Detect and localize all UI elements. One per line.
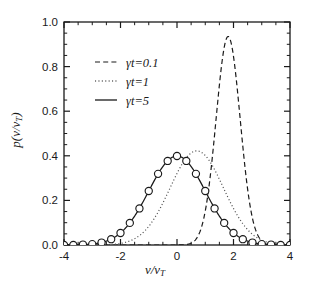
distribution-plot: -4-20240.00.20.40.60.81.0γt=0.1γt=1γt=5 [0, 0, 310, 291]
x-tick-label: 4 [287, 250, 294, 262]
y-tick-label: 0.2 [42, 194, 58, 206]
y-tick-label: 0.8 [42, 61, 58, 73]
data-marker [286, 241, 293, 248]
data-marker [154, 170, 161, 177]
data-marker [108, 236, 115, 243]
data-marker [211, 205, 218, 212]
y-tick-label: 0.4 [42, 150, 59, 162]
curve-solid [64, 156, 290, 245]
legend-label: γt=5 [126, 94, 149, 108]
data-marker [230, 229, 237, 236]
data-marker [173, 152, 180, 159]
y-tick-label: 1.0 [42, 16, 58, 28]
data-marker [126, 219, 133, 226]
y-tick-label: 0.6 [42, 105, 58, 117]
x-axis-label: v/vT [0, 262, 310, 278]
data-marker [202, 187, 209, 194]
data-marker [221, 219, 228, 226]
x-tick-label: 2 [230, 250, 236, 262]
data-marker [239, 236, 246, 243]
data-marker [70, 241, 77, 248]
data-marker [89, 241, 96, 248]
data-marker [277, 241, 284, 248]
data-marker [136, 205, 143, 212]
x-tick-label: -2 [115, 250, 125, 262]
data-marker [164, 157, 171, 164]
data-marker [192, 170, 199, 177]
y-tick-label: 0.0 [42, 239, 58, 251]
legend-label: γt=0.1 [126, 56, 158, 70]
data-marker [258, 241, 265, 248]
data-marker [79, 241, 86, 248]
legend-label: γt=1 [126, 75, 149, 89]
x-tick-label: -4 [59, 250, 70, 262]
plot-frame [64, 22, 290, 245]
data-marker [117, 229, 124, 236]
figure-container: -4-20240.00.20.40.60.81.0γt=0.1γt=1γt=5 … [0, 0, 310, 291]
data-marker [183, 157, 190, 164]
data-marker [267, 241, 274, 248]
y-axis-label: p(v/vT) [8, 80, 24, 180]
data-marker [145, 187, 152, 194]
data-marker [60, 241, 67, 248]
x-tick-label: 0 [174, 250, 180, 262]
curve-dashed [64, 37, 290, 246]
